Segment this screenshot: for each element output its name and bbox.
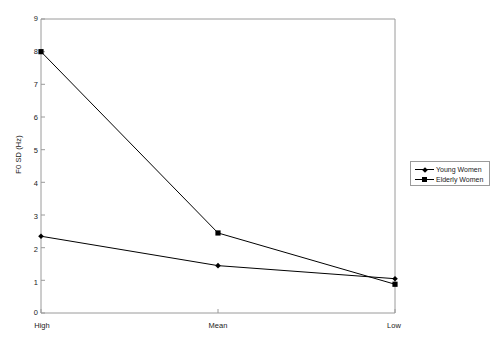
x-axis-ticks — [41, 309, 395, 313]
series-line — [41, 236, 395, 278]
data-point-square — [215, 230, 220, 235]
chart-legend: Young Women Elderly Women — [410, 161, 490, 186]
data-point-diamond — [38, 233, 44, 239]
series-line — [41, 52, 395, 285]
legend-label-elderly-women: Elderly Women — [436, 176, 483, 183]
data-point-diamond — [215, 263, 221, 269]
data-point-diamond — [392, 276, 398, 282]
chart-container: F0 SD (Hz) 9 8 7 6 5 4 3 2 1 0 High Mean… — [0, 0, 499, 351]
legend-marker-diamond-icon — [415, 165, 434, 174]
y-axis-ticks — [41, 19, 45, 313]
data-point-square — [392, 282, 397, 287]
series-young-women — [38, 233, 398, 281]
legend-item-young-women: Young Women — [415, 165, 485, 174]
series-elderly-women — [38, 49, 397, 287]
legend-label-young-women: Young Women — [436, 166, 482, 173]
data-point-square — [38, 49, 43, 54]
legend-marker-square-icon — [415, 175, 434, 184]
data-series-layer — [38, 49, 398, 287]
legend-item-elderly-women: Elderly Women — [415, 175, 485, 184]
